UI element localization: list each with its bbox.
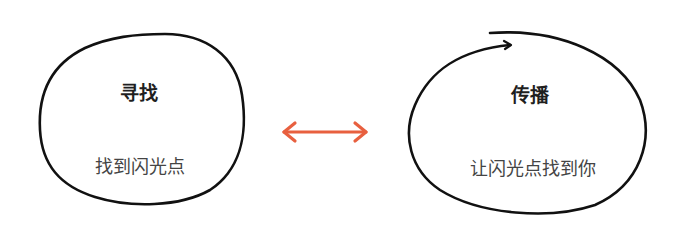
left-circle: [40, 34, 244, 204]
double-arrow-icon: [284, 123, 366, 141]
left-subtitle: 找到闪光点: [95, 152, 185, 178]
right-title: 传播: [511, 80, 549, 107]
right-subtitle: 让闪光点找到你: [470, 154, 596, 180]
left-title: 寻找: [120, 78, 158, 105]
diagram-canvas: [0, 0, 686, 233]
right-circle: [409, 32, 646, 213]
